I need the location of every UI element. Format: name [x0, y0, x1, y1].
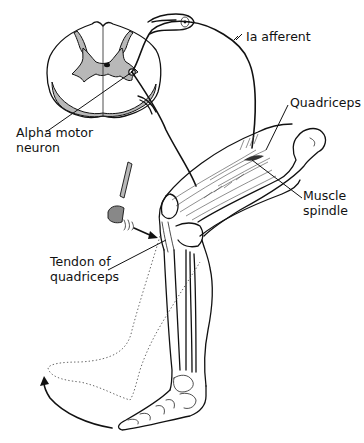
label-tendon-1: Tendon of — [49, 254, 111, 269]
knee-jerk-reflex-diagram: Ia afferent Quadriceps Muscle spindle Al… — [0, 0, 364, 443]
leader-ia-afferent-line — [234, 34, 242, 40]
alpha-motor-efferent-fiber — [132, 72, 196, 186]
leg-swing-arrow — [44, 382, 112, 428]
tap-arrowhead — [148, 231, 158, 239]
spinal-cord-cross-section — [47, 22, 161, 118]
label-alpha-motor-2: neuron — [16, 140, 60, 155]
shin-front-outline — [164, 250, 172, 390]
calf-outline — [202, 240, 212, 386]
leader-muscle-spindle — [252, 160, 302, 198]
label-muscle-spindle-2: spindle — [303, 203, 348, 218]
label-ia-afferent: Ia afferent — [246, 29, 311, 44]
leg-swing-arrowhead — [40, 376, 49, 386]
central-canal — [104, 63, 110, 67]
muscle-spindle — [244, 155, 264, 161]
ia-afferent-fiber — [132, 21, 255, 148]
label-tendon-2: quadriceps — [50, 269, 119, 284]
femur — [198, 129, 325, 236]
dorsal-root-outline — [148, 14, 194, 34]
leader-tendon — [108, 240, 166, 270]
hammer-head — [108, 206, 124, 223]
fibula — [190, 252, 196, 372]
label-muscle-spindle-1: Muscle — [303, 188, 347, 203]
dorsal-root — [148, 14, 194, 34]
tap-vibration-lines — [124, 220, 134, 230]
femur-head-detail — [310, 138, 315, 146]
label-quadriceps: Quadriceps — [290, 95, 361, 110]
foot-outline — [119, 386, 206, 430]
hammer-handle — [120, 162, 132, 198]
leg-illustration — [119, 124, 326, 430]
patella — [161, 194, 178, 219]
reflex-hammer — [108, 162, 158, 239]
knee-joint — [176, 223, 203, 247]
label-alpha-motor-1: Alpha motor — [16, 125, 94, 140]
tibia — [174, 250, 186, 370]
